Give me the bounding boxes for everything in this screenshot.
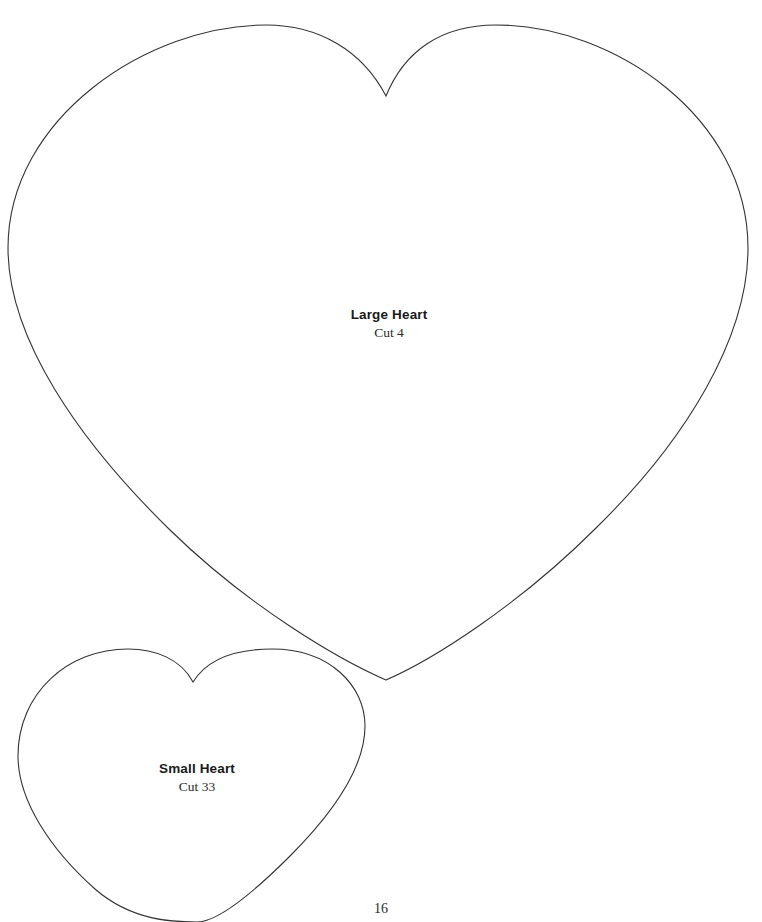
pattern-outlines-canvas: [0, 0, 762, 922]
small-heart-label: Small Heart Cut 33: [159, 762, 235, 793]
pattern-template-page: Large Heart Cut 4 Small Heart Cut 33 16: [0, 0, 762, 922]
small-heart-cut-instruction: Cut 33: [159, 780, 235, 794]
large-heart-title: Large Heart: [351, 308, 428, 322]
large-heart-outline-icon: [8, 25, 748, 680]
large-heart-cut-instruction: Cut 4: [351, 326, 428, 340]
large-heart-label: Large Heart Cut 4: [351, 308, 428, 339]
page-number: 16: [0, 901, 762, 917]
small-heart-title: Small Heart: [159, 762, 235, 776]
